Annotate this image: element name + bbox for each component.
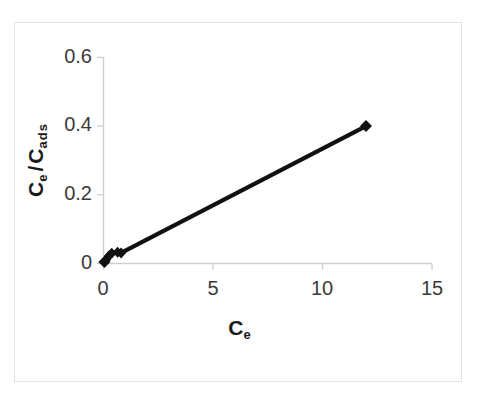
x-tick-label-3: 15 (412, 277, 452, 300)
y-axis-title-sub2: ads (35, 123, 50, 148)
y-tick-marks (97, 57, 104, 263)
chart-figure: 0 0.2 0.4 0.6 0 5 10 15 Ce/Cads Ce (0, 0, 482, 397)
x-axis-title-sub: e (243, 327, 251, 342)
y-axis-title: Ce/Cads (24, 80, 48, 240)
x-axis-title-base: C (228, 316, 243, 339)
y-tick-label-3: 0.6 (48, 45, 92, 68)
y-axis-title-sub1: e (35, 174, 50, 182)
x-tick-label-0: 0 (83, 277, 123, 300)
y-tick-label-1: 0.2 (48, 182, 92, 205)
data-series-line (104, 126, 366, 262)
y-tick-label-0: 0 (48, 251, 92, 274)
y-tick-label-2: 0.4 (48, 113, 92, 136)
x-axis-title: Ce (180, 316, 300, 340)
x-tick-label-1: 5 (193, 277, 233, 300)
y-axis-title-base2: C (24, 149, 47, 164)
x-tick-label-2: 10 (302, 277, 342, 300)
y-axis-title-slash: / (24, 164, 47, 174)
x-tick-marks (104, 264, 433, 271)
y-axis-title-base1: C (24, 182, 47, 197)
